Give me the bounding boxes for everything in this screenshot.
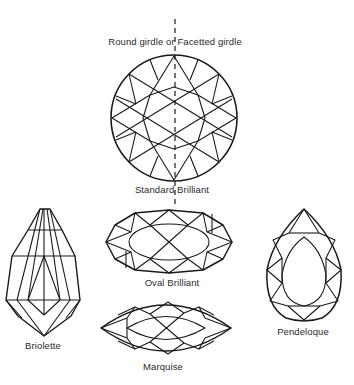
label-marquise: Marquise (143, 361, 183, 372)
standard-brilliant-shape (111, 55, 237, 181)
oval-brilliant-shape (106, 210, 232, 273)
briolette-shape (6, 209, 80, 336)
label-standard-brilliant: Standard Brilliant (135, 184, 209, 195)
label-oval-brilliant: Oval Brilliant (145, 277, 200, 288)
label-briolette: Briolette (25, 340, 61, 351)
label-pendeloque: Pendeloque (277, 326, 329, 337)
marquise-shape (101, 302, 231, 354)
label-girdle: Round girdle or Facetted girdle (108, 36, 242, 47)
pendeloque-shape (267, 209, 341, 321)
